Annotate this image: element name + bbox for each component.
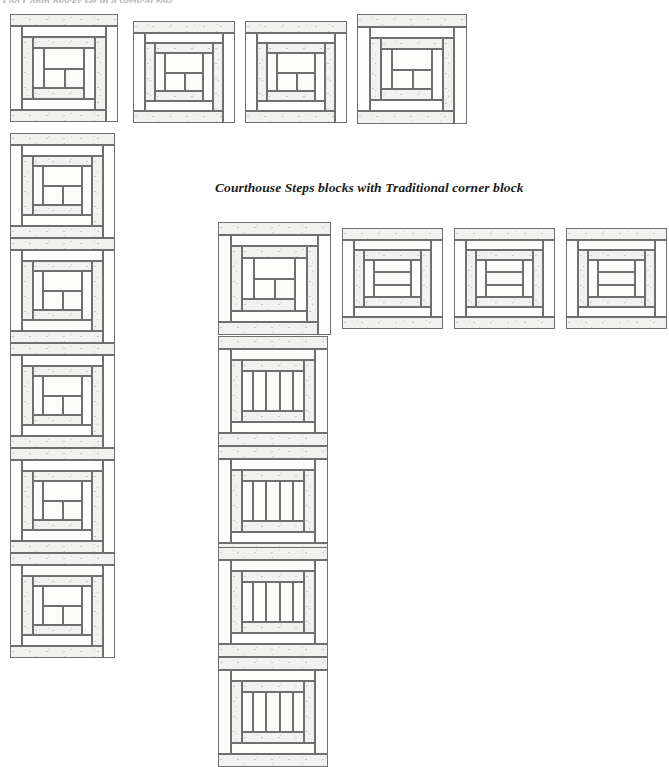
centre-square <box>63 501 82 520</box>
step-bottom-0 <box>218 433 328 446</box>
log-left-2 <box>33 586 44 625</box>
step-left-1 <box>466 250 476 308</box>
log-bottom-0 <box>10 331 103 343</box>
log-right-0 <box>454 27 467 124</box>
log-right-2 <box>82 166 93 215</box>
diagram-caption: Courthouse Steps blocks with Traditional… <box>215 180 524 196</box>
log-bottom-0 <box>10 436 103 448</box>
centre-bar-left <box>253 582 267 623</box>
log-bottom-0 <box>245 111 335 123</box>
centre-bar-left <box>253 692 267 733</box>
courthouse-steps-block <box>342 228 443 329</box>
traditional-log-cabin-block <box>10 133 115 238</box>
step-left-1 <box>578 250 588 308</box>
step-top-2 <box>242 360 305 371</box>
traditional-log-cabin-block <box>10 14 118 122</box>
step-right-2 <box>293 692 304 733</box>
log-bottom-0 <box>10 226 103 238</box>
centre-square <box>185 73 203 91</box>
log-top-1 <box>22 355 103 366</box>
step-bottom-2 <box>242 732 305 743</box>
log-left-0 <box>133 33 145 112</box>
log-right-0 <box>335 33 347 123</box>
step-top-2 <box>364 250 422 260</box>
log-right-0 <box>106 26 118 122</box>
centre-square <box>63 291 82 310</box>
log-top-0 <box>218 222 331 235</box>
centre-bar-right <box>280 371 294 412</box>
log-left-0 <box>357 27 370 112</box>
log-top-2 <box>242 246 306 257</box>
log-bottom-0 <box>133 111 223 123</box>
courthouse-steps-block <box>218 657 328 767</box>
step-top-0 <box>342 228 443 240</box>
log-bottom-1 <box>22 425 92 436</box>
centre-square <box>598 272 635 284</box>
traditional-log-cabin-block <box>133 21 235 123</box>
log-right-2 <box>315 53 325 101</box>
centre-upper <box>277 53 315 73</box>
step-top-0 <box>566 228 667 240</box>
log-top-0 <box>10 448 115 460</box>
step-left-1 <box>231 681 242 744</box>
step-top-0 <box>454 228 555 240</box>
log-right-2 <box>432 49 443 101</box>
log-bottom-2 <box>33 205 82 216</box>
step-right-1 <box>304 470 315 533</box>
centre-square <box>63 606 82 625</box>
step-top-2 <box>242 571 305 582</box>
log-right-2 <box>82 586 93 635</box>
step-right-2 <box>635 260 645 297</box>
log-bottom-0 <box>10 110 106 122</box>
centre-bar-left <box>253 371 267 412</box>
log-bottom-2 <box>242 299 295 310</box>
step-bottom-0 <box>342 317 443 329</box>
log-right-0 <box>318 235 331 335</box>
log-top-2 <box>33 366 93 377</box>
centre-square <box>275 279 295 299</box>
step-left-2 <box>364 260 374 297</box>
step-right-2 <box>293 371 304 412</box>
step-right-0 <box>655 240 667 318</box>
log-right-2 <box>82 271 93 320</box>
log-bottom-0 <box>218 322 318 335</box>
log-right-1 <box>92 576 103 646</box>
log-bottom-0 <box>357 111 454 124</box>
step-left-0 <box>218 560 231 645</box>
step-top-2 <box>242 681 305 692</box>
log-bottom-1 <box>145 101 213 111</box>
log-bottom-0 <box>10 646 103 658</box>
log-top-2 <box>155 43 213 53</box>
log-right-1 <box>92 156 103 226</box>
centre-bar-right <box>280 582 294 623</box>
traditional-log-cabin-block <box>10 448 115 553</box>
step-left-1 <box>231 571 242 634</box>
step-left-2 <box>476 260 486 297</box>
log-left-2 <box>267 53 277 91</box>
step-bottom-0 <box>454 317 555 329</box>
step-left-2 <box>588 260 598 297</box>
step-bottom-0 <box>566 317 667 329</box>
step-bottom-0 <box>218 754 328 767</box>
log-bottom-2 <box>33 625 82 636</box>
step-bottom-2 <box>476 297 534 307</box>
centre-lower-left <box>43 291 63 310</box>
step-left-1 <box>231 360 242 423</box>
step-right-2 <box>411 260 421 297</box>
step-right-2 <box>523 260 533 297</box>
log-top-2 <box>33 471 93 482</box>
log-right-2 <box>295 258 306 311</box>
log-right-1 <box>325 43 335 111</box>
step-left-0 <box>218 349 231 434</box>
log-top-0 <box>10 343 115 355</box>
log-bottom-1 <box>231 311 307 322</box>
courthouse-steps-block <box>454 228 555 329</box>
step-bottom-2 <box>242 521 305 532</box>
log-bottom-0 <box>10 541 103 553</box>
step-right-0 <box>315 670 328 755</box>
log-left-0 <box>10 460 22 541</box>
centre-lower-left <box>392 70 413 90</box>
centre-bar-top <box>374 260 411 272</box>
centre-upper <box>43 271 82 291</box>
log-bottom-2 <box>267 91 315 101</box>
